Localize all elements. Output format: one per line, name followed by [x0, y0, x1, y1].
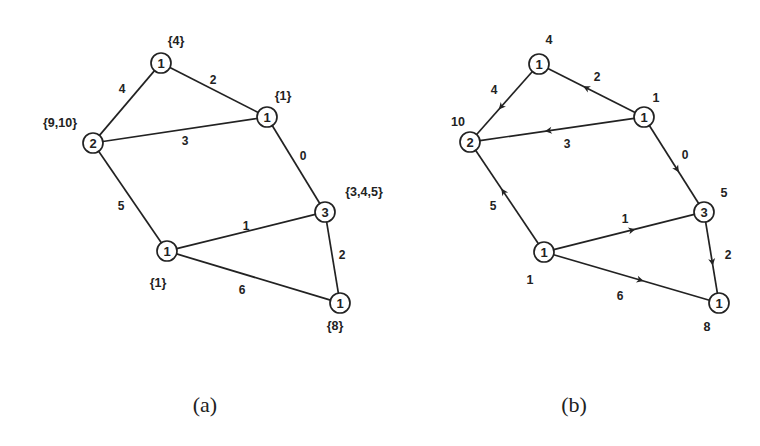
edge-weight-label: 1 [622, 212, 629, 226]
panel-caption: (b) [561, 392, 587, 417]
node-top: 14 [529, 33, 553, 74]
node-value: 1 [535, 57, 542, 72]
node-value: 1 [157, 56, 164, 71]
edge-weight-label: 3 [182, 134, 189, 148]
edge-weight-label: 5 [490, 199, 497, 213]
arrowhead-icon [501, 189, 508, 197]
node-annotation: {1} [275, 89, 292, 103]
node-top: 1{4} [151, 34, 184, 73]
node-value: 3 [700, 205, 707, 220]
edge-right-top [548, 69, 635, 113]
edge-mid-far [706, 222, 718, 293]
node-left: 2{9,10} [43, 116, 103, 153]
node-value: 1 [336, 296, 343, 311]
node-annotation: 1 [653, 91, 660, 105]
node-annotation: {3,4,5} [345, 185, 383, 199]
edge-right-left [480, 118, 634, 140]
node-bottom: 1{1} [150, 241, 177, 290]
node-far: 1{8} [327, 293, 350, 333]
edge-left-right [103, 118, 257, 141]
node-left: 210 [451, 115, 480, 152]
graph-figure: 423051261{4}1{1}2{9,10}3{3,4,5}1{1}1{8}(… [0, 0, 760, 446]
edge-weight-label: 6 [617, 289, 624, 303]
edge-weight-label: 6 [239, 283, 246, 297]
node-right: 11 [634, 91, 660, 127]
node-mid: 3{3,4,5} [315, 185, 383, 222]
edge-mid-far [327, 222, 339, 293]
edge-weight-label: 0 [300, 149, 307, 163]
node-annotation: {1} [150, 276, 167, 290]
node-annotation: 10 [451, 115, 465, 129]
node-annotation: 5 [721, 186, 728, 200]
node-annotation: {9,10} [43, 116, 77, 130]
edge-weight-label: 2 [725, 248, 732, 262]
edge-left-top [99, 71, 154, 136]
edge-weight-label: 0 [682, 148, 689, 162]
panel-a-undirected-graph: 423051261{4}1{1}2{9,10}3{3,4,5}1{1}1{8}(… [43, 34, 383, 417]
edge-weight-label: 2 [210, 73, 217, 87]
edge-left-bottom [99, 151, 162, 243]
node-value: 1 [163, 244, 170, 259]
node-annotation: {4} [168, 34, 185, 48]
edge-bottom-far [554, 255, 710, 300]
node-value: 1 [263, 110, 270, 125]
node-value: 2 [466, 135, 473, 150]
edge-right-mid [649, 125, 698, 203]
node-value: 3 [321, 205, 328, 220]
node-right: 1{1} [257, 89, 291, 127]
node-annotation: {8} [327, 319, 344, 333]
node-bottom: 11 [527, 242, 554, 287]
edge-weight-label: 2 [594, 70, 601, 84]
edge-top-left [477, 71, 533, 134]
edge-right-mid [272, 126, 320, 204]
edge-weight-label: 2 [339, 248, 346, 262]
node-annotation: 4 [546, 33, 553, 47]
node-mid: 35 [694, 186, 728, 222]
node-annotation: 8 [704, 320, 711, 334]
panel-b-directed-graph: 423051261411210351118(b) [451, 33, 732, 417]
edge-weight-label: 1 [243, 219, 250, 233]
node-value: 1 [715, 296, 722, 311]
node-value: 2 [89, 136, 96, 151]
edge-weight-label: 5 [118, 199, 125, 213]
edge-bottom-left [476, 150, 539, 243]
node-annotation: 1 [527, 273, 534, 287]
panel-caption: (a) [193, 392, 217, 417]
edge-weight-label: 4 [119, 82, 126, 96]
node-value: 1 [640, 110, 647, 125]
edge-weight-label: 4 [491, 83, 498, 97]
edge-weight-label: 3 [564, 137, 571, 151]
node-value: 1 [540, 245, 547, 260]
edge-bottom-far [177, 254, 331, 300]
